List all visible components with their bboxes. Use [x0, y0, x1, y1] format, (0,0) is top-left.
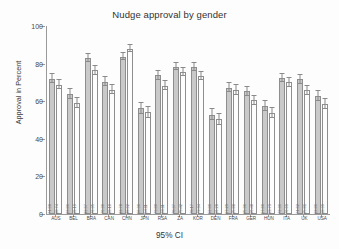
- y-tick-label: 0: [39, 211, 43, 218]
- bar-group-ita: 72.3670.09: [277, 26, 295, 214]
- error-bar-cap-upper: [110, 84, 115, 85]
- bar-slot: 82.97: [85, 26, 91, 214]
- bar-jpn-male[interactable]: 56.30: [138, 108, 144, 214]
- bar-slot: 75.42: [180, 26, 186, 214]
- error-bar-cap-lower: [121, 59, 126, 60]
- bar-bra-male[interactable]: 82.97: [85, 58, 91, 214]
- bar-group-den: 52.8050.28: [206, 26, 224, 214]
- bar-slot: 54.11: [145, 26, 151, 214]
- bar-den-female[interactable]: 50.28: [216, 119, 222, 214]
- bar-ger-female[interactable]: 60.48: [251, 100, 257, 214]
- bar-group-chn: 83.7888.02: [118, 26, 136, 214]
- x-tick-label-bra: BRA: [83, 216, 101, 228]
- error-bar-cap-upper: [75, 97, 80, 98]
- bar-slot: 73.34: [198, 26, 204, 214]
- error-bar-cap-upper: [244, 86, 249, 87]
- bar-za-female[interactable]: 75.42: [180, 72, 186, 214]
- bar-usa-male[interactable]: 62.86: [315, 96, 321, 214]
- x-tick-label-chn: CHN: [118, 216, 136, 228]
- bar-kor-male[interactable]: 78.17: [191, 67, 197, 214]
- bar-value-label: 57.60: [260, 204, 265, 214]
- bar-slot: 59.19: [74, 26, 80, 214]
- bar-den-male[interactable]: 52.80: [209, 115, 215, 214]
- error-bar-cap-lower: [234, 94, 239, 95]
- x-tick-label-den: DEN: [207, 216, 225, 228]
- bar-slot: 68.74: [56, 26, 62, 214]
- error-bar-cap-upper: [138, 102, 143, 103]
- bar-jpn-female[interactable]: 54.11: [145, 112, 151, 214]
- plot-area: 020406080100 71.9868.7463.8659.1982.9776…: [46, 26, 330, 214]
- bar-slot: 62.86: [315, 26, 321, 214]
- bar-bel-male[interactable]: 63.86: [67, 94, 73, 214]
- bar-slot: 60.48: [251, 26, 257, 214]
- bar-aus-male[interactable]: 71.98: [49, 79, 55, 214]
- error-bar-cap-lower: [68, 98, 73, 99]
- bar-za-male[interactable]: 78.37: [173, 67, 179, 214]
- x-tick-label-rsa: RSA: [154, 216, 172, 228]
- error-bar-cap-upper: [262, 100, 267, 101]
- bar-ita-male[interactable]: 72.36: [279, 78, 285, 214]
- bar-ger-male[interactable]: 65.36: [244, 91, 250, 214]
- error-bar-cap-upper: [191, 62, 196, 63]
- error-bar-cap-upper: [174, 62, 179, 63]
- error-bar-cap-upper: [227, 82, 232, 83]
- error-bar-cap-upper: [198, 71, 203, 72]
- error-bar-cap-lower: [287, 86, 292, 87]
- bar-uk-male[interactable]: 71.62: [297, 79, 303, 214]
- bar-can-male[interactable]: 70.36: [102, 82, 108, 214]
- bar-slot: 63.86: [67, 26, 73, 214]
- bar-slot: 66.10: [109, 26, 115, 214]
- bar-usa-female[interactable]: 58.39: [322, 104, 328, 214]
- error-bar-cap-lower: [145, 117, 150, 118]
- bar-slot: 52.80: [209, 26, 215, 214]
- bar-hun-male[interactable]: 57.60: [262, 106, 268, 214]
- error-bar-cap-lower: [57, 88, 62, 89]
- error-bar-cap-upper: [280, 73, 285, 74]
- error-bar-cap-upper: [269, 107, 274, 108]
- x-tick-label-ger: GER: [242, 216, 260, 228]
- bar-value-label: 78.17: [189, 204, 194, 214]
- x-axis-title: 95% CI: [0, 231, 339, 240]
- error-bar-cap-lower: [304, 94, 309, 95]
- bar-uk-female[interactable]: 65.81: [304, 90, 310, 214]
- bar-hun-female[interactable]: 53.73: [269, 113, 275, 214]
- bar-bra-female[interactable]: 76.35: [92, 70, 98, 214]
- bar-slot: 88.02: [127, 26, 133, 214]
- bar-aus-female[interactable]: 68.74: [56, 85, 62, 214]
- x-tick-label-uk: UK: [296, 216, 314, 228]
- error-bar-cap-lower: [191, 70, 196, 71]
- bar-slot: 50.28: [216, 26, 222, 214]
- bar-value-label: 71.98: [47, 204, 52, 214]
- bar-ita-female[interactable]: 70.09: [286, 82, 292, 214]
- bar-value-label: 72.36: [277, 204, 282, 214]
- x-tick-label-ita: ITA: [278, 216, 296, 228]
- bar-group-aus: 71.9868.74: [47, 26, 65, 214]
- error-bar-cap-lower: [297, 83, 302, 84]
- bar-rsa-female[interactable]: 68.11: [162, 86, 168, 214]
- error-bar-cap-upper: [322, 98, 327, 99]
- bar-group-jpn: 56.3054.11: [135, 26, 153, 214]
- bar-chn-male[interactable]: 83.78: [120, 57, 126, 215]
- y-tick-label: 100: [31, 23, 43, 30]
- error-bar-cap-lower: [75, 107, 80, 108]
- x-tick-label-hun: HUN: [260, 216, 278, 228]
- bar-kor-female[interactable]: 73.34: [198, 76, 204, 214]
- y-tick-label: 20: [35, 173, 43, 180]
- bar-group-usa: 62.8658.39: [312, 26, 330, 214]
- bar-value-label: 62.86: [313, 204, 318, 214]
- bar-group-fra: 67.2965.88: [224, 26, 242, 214]
- bar-chn-female[interactable]: 88.02: [127, 49, 133, 214]
- bar-value-label: 73.80: [153, 204, 158, 214]
- bar-slot: 70.09: [286, 26, 292, 214]
- bar-group-za: 78.3775.42: [171, 26, 189, 214]
- bar-rsa-male[interactable]: 73.80: [155, 75, 161, 214]
- error-bar-cap-upper: [121, 52, 126, 53]
- bar-can-female[interactable]: 66.10: [109, 90, 115, 214]
- bar-fra-female[interactable]: 65.88: [233, 90, 239, 214]
- bar-slot: 65.88: [233, 26, 239, 214]
- bar-fra-male[interactable]: 67.29: [226, 88, 232, 215]
- error-bar-cap-lower: [244, 95, 249, 96]
- error-bar-cap-lower: [198, 79, 203, 80]
- bar-bel-female[interactable]: 59.19: [74, 103, 80, 214]
- bar-group-uk: 71.6265.81: [295, 26, 313, 214]
